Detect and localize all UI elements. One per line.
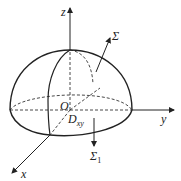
y-axis-label: y [161,113,166,125]
z-axis-label: z [61,6,66,18]
ray-hidden [70,88,100,110]
sigma1-sub: 1 [97,156,101,165]
meridian-front [48,50,70,135]
hemisphere-outline [10,50,132,110]
meridian-back-dashed [70,50,93,84]
x-axis-label: x [21,168,26,180]
sigma-normal-arrow [96,38,110,72]
hemisphere-diagram: z y x O Dxy Σ Σ1 [0,0,181,181]
sigma-label: Σ [112,30,119,42]
sigma1-label: Σ1 [90,150,101,165]
equator-back-dashed [10,95,132,110]
region-dxy-label: Dxy [68,113,84,128]
region-sub: xy [77,119,84,128]
x-axis [12,135,50,173]
region-main: D [68,112,77,126]
origin-label: O [60,100,69,112]
x-axis-hidden [50,110,70,135]
